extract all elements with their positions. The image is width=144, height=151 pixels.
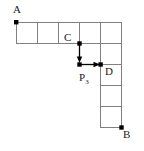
marker-d (98, 62, 102, 66)
label-d: D (105, 66, 113, 77)
label-c: C (64, 32, 71, 43)
grid-path-figure: A C D B P3 (0, 0, 144, 151)
marker-a (14, 20, 18, 24)
label-a: A (13, 4, 21, 15)
marker-p3 (77, 62, 81, 66)
arrow-c-to-p3 (77, 44, 82, 64)
label-p3-subscript: 3 (85, 78, 89, 86)
marker-c (77, 41, 81, 45)
arrow-p3-to-d (80, 62, 101, 67)
label-b: B (123, 129, 130, 140)
label-p3: P3 (79, 72, 89, 86)
